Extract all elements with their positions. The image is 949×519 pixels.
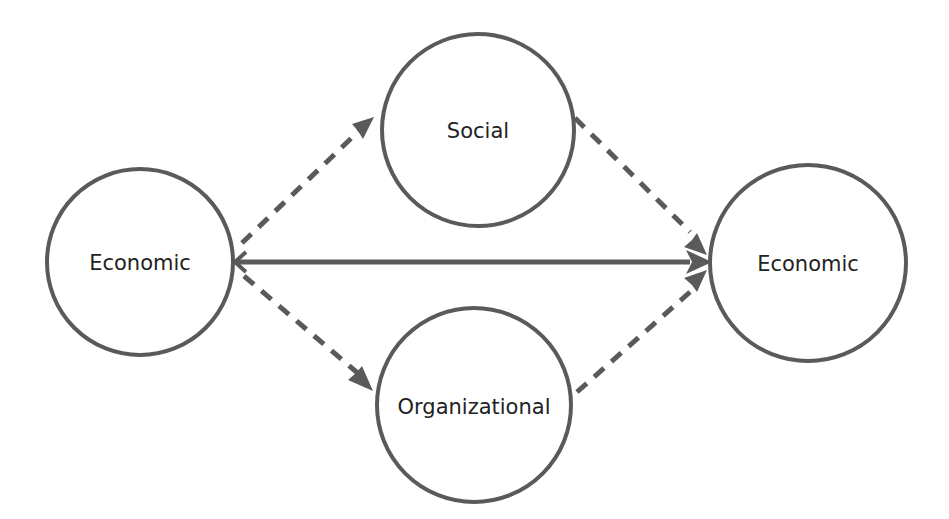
social-label: Social (447, 119, 509, 143)
diagram-canvas: Economic Social Organizational Economic (0, 0, 949, 519)
node-organizational: Organizational (377, 308, 571, 502)
economic-left-label: Economic (89, 251, 191, 275)
organizational-label: Organizational (398, 395, 551, 419)
dashed-arrow-line (575, 118, 690, 232)
edge-economic-to-social (242, 117, 374, 243)
edge-social-to-economic (575, 118, 707, 255)
dashed-arrow-line (242, 128, 362, 243)
dashed-arrow-line (577, 292, 690, 392)
arrowhead-icon (352, 117, 374, 139)
edge-economic-to-organizational (244, 276, 373, 391)
edge-economic-to-economic (235, 250, 712, 274)
economic-right-label: Economic (757, 252, 859, 276)
node-economic-left: Economic (47, 169, 233, 355)
node-social: Social (382, 34, 574, 226)
edge-organizational-to-economic (577, 270, 707, 392)
dashed-arrow-line (244, 276, 360, 375)
node-economic-right: Economic (710, 165, 906, 361)
